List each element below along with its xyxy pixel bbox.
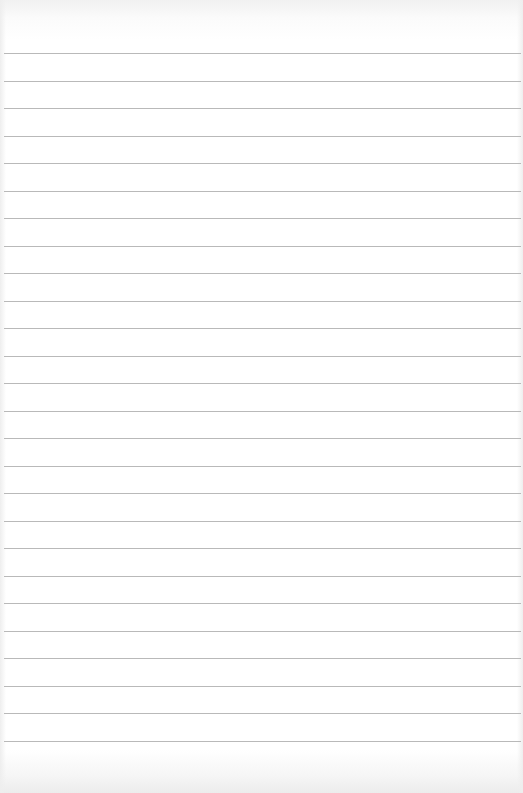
- ruled-line: [4, 603, 521, 604]
- ruled-line: [4, 438, 521, 439]
- ruled-line: [4, 273, 521, 274]
- ruled-line: [4, 356, 521, 357]
- ruled-line: [4, 493, 521, 494]
- ruled-line: [4, 466, 521, 467]
- ruled-line: [4, 53, 521, 54]
- ruled-line: [4, 383, 521, 384]
- paper-left-edge: [0, 0, 6, 793]
- ruled-line: [4, 81, 521, 82]
- lined-paper-sheet: [0, 0, 523, 793]
- ruled-line: [4, 163, 521, 164]
- ruled-line: [4, 301, 521, 302]
- ruled-line: [4, 548, 521, 549]
- ruled-line: [4, 218, 521, 219]
- ruled-line: [4, 686, 521, 687]
- ruled-line: [4, 191, 521, 192]
- ruled-line: [4, 658, 521, 659]
- ruled-line: [4, 328, 521, 329]
- ruled-line: [4, 631, 521, 632]
- ruled-line: [4, 411, 521, 412]
- paper-right-edge: [517, 0, 523, 793]
- ruled-line: [4, 246, 521, 247]
- ruled-line: [4, 108, 521, 109]
- ruled-line: [4, 136, 521, 137]
- ruled-line: [4, 741, 521, 742]
- ruled-line: [4, 713, 521, 714]
- ruled-line: [4, 521, 521, 522]
- ruled-line: [4, 576, 521, 577]
